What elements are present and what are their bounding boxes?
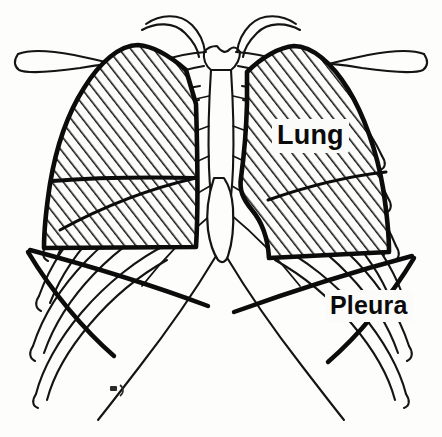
thorax-lung-pleura-diagram — [0, 0, 442, 437]
label-lung: Lung — [272, 119, 349, 153]
anatomy-figure: Lung Pleura — [0, 0, 442, 437]
label-pleura: Pleura — [325, 290, 413, 322]
